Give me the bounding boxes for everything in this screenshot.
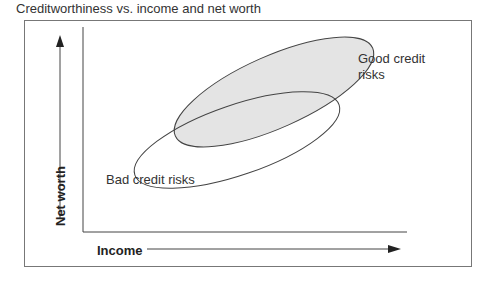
diagram-canvas — [0, 0, 494, 281]
y-arrow-head-icon — [56, 35, 64, 47]
x-axis-label: Income — [97, 243, 143, 258]
good-credit-label: Good credit risks — [358, 51, 425, 83]
y-axis-label: Net worth — [53, 166, 68, 226]
x-arrow-head-icon — [388, 245, 401, 253]
bad-credit-label: Bad credit risks — [106, 172, 195, 187]
good-credit-label-line2: risks — [358, 67, 425, 83]
good-credit-region — [161, 15, 388, 169]
good-credit-label-line1: Good credit — [358, 51, 425, 67]
